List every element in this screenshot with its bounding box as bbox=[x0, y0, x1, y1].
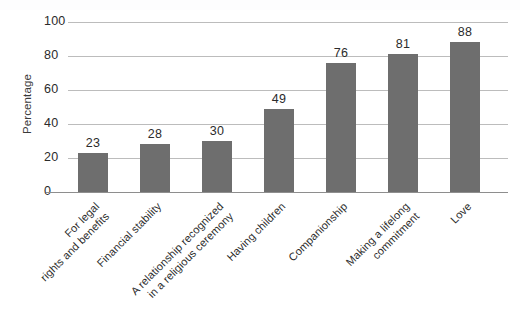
bar-chart: Percentage 100806040200 23283049768188 F… bbox=[0, 0, 520, 336]
bar-value-label: 76 bbox=[321, 46, 361, 60]
y-tick-label: 20 bbox=[44, 150, 74, 164]
bar bbox=[140, 144, 170, 192]
bar-value-label: 23 bbox=[73, 136, 113, 150]
bar-value-label: 88 bbox=[445, 25, 485, 39]
bar bbox=[388, 54, 418, 192]
bar-value-label: 28 bbox=[135, 127, 175, 141]
bar bbox=[450, 42, 480, 192]
bar bbox=[326, 63, 356, 192]
y-tick-label: 40 bbox=[44, 116, 74, 130]
y-tick-label: 0 bbox=[44, 184, 74, 198]
bar-value-label: 81 bbox=[383, 37, 423, 51]
x-axis-baseline bbox=[46, 192, 508, 193]
gridline bbox=[68, 22, 508, 23]
bar bbox=[78, 153, 108, 192]
y-tick-label: 60 bbox=[44, 82, 74, 96]
y-axis-title: Percentage bbox=[21, 44, 33, 164]
gridline bbox=[68, 56, 508, 57]
bar-value-label: 30 bbox=[197, 124, 237, 138]
scan-noise bbox=[0, 0, 520, 10]
y-tick-label: 100 bbox=[44, 14, 74, 28]
bar-value-label: 49 bbox=[259, 92, 299, 106]
bar bbox=[264, 109, 294, 192]
bar bbox=[202, 141, 232, 192]
y-tick-label: 80 bbox=[44, 48, 74, 62]
